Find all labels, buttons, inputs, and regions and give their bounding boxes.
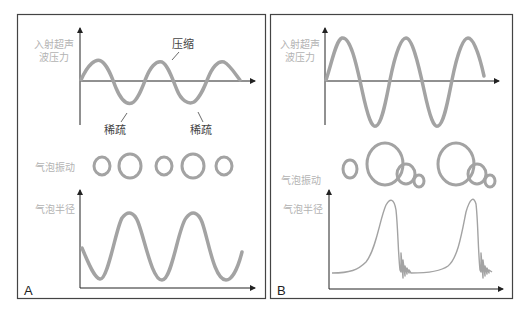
- panel-b-radius-label: 气泡半径: [283, 203, 323, 215]
- rarefaction-pointer-2: [198, 112, 203, 122]
- compression-pointer: [172, 52, 179, 60]
- panel-b-bubbles: [343, 143, 495, 187]
- panel-b-pressure-label-1: 入射超声: [280, 38, 320, 50]
- panel-b-radius-curve: [332, 199, 492, 278]
- panel-b: 入射超声 波压力 气泡振动 气泡半径 B: [277, 28, 503, 298]
- panel-b-bubble-label: 气泡振动: [281, 174, 321, 186]
- panel-a-bubble-label: 气泡振动: [35, 161, 75, 173]
- panel-a-bubbles: [94, 154, 232, 178]
- rarefaction-pointer-1: [121, 113, 127, 122]
- panel-a-pressure-label-1: 入射超声: [34, 38, 74, 50]
- panel-b-pressure-wave: [326, 38, 484, 126]
- panel-a-pressure-label-2: 波压力: [39, 51, 69, 63]
- panel-a-pressure-wave: [81, 60, 240, 103]
- compression-label: 压缩: [172, 38, 194, 51]
- panel-b-letter: B: [277, 283, 286, 298]
- panel-a-letter: A: [24, 283, 33, 298]
- panel-a-radius-label: 气泡半径: [35, 203, 75, 215]
- cavitation-diagram: 入射超声 波压力 压缩 稀疏 稀疏 气泡振动 气泡半径 A 入射超声 波压力 气…: [0, 0, 527, 316]
- panel-a: 入射超声 波压力 压缩 稀疏 稀疏 气泡振动 气泡半径 A: [24, 28, 255, 298]
- rarefaction-label-1: 稀疏: [104, 123, 126, 137]
- panel-a-radius-wave: [82, 213, 242, 280]
- rarefaction-label-2: 稀疏: [190, 123, 212, 137]
- panel-b-pressure-label-2: 波压力: [285, 51, 315, 63]
